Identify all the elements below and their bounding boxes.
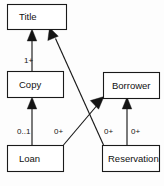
arrowhead-loan-to-copy (27, 97, 37, 109)
relationship-line-loan-to-borrower (64, 106, 97, 145)
class-box-title[interactable] (8, 5, 67, 30)
arrowhead-loan-to-borrower (90, 97, 104, 110)
multiplicity-label-loan-to-borrower: 0+ (54, 127, 63, 136)
class-node-copy[interactable]: Copy (8, 72, 64, 98)
multiplicity-label-reservation-to-title: 0+ (104, 127, 113, 136)
class-node-loan[interactable]: Loan (8, 146, 64, 172)
arrowhead-copy-to-title (27, 29, 37, 41)
class-node-borrower[interactable]: Borrower (104, 73, 160, 99)
multiplicity-label-loan-to-copy: 0..1 (17, 127, 31, 136)
class-node-reservation[interactable]: Reservation (103, 146, 160, 172)
class-label-title: Title (19, 11, 37, 22)
multiplicity-label-copy-to-title: 1+ (24, 56, 33, 65)
class-label-borrower: Borrower (112, 80, 151, 91)
class-label-loan: Loan (19, 153, 40, 164)
uml-class-diagram: Title Copy Loan Borrower Reservation 1+ … (0, 0, 164, 186)
class-label-reservation: Reservation (108, 153, 159, 164)
class-node-title[interactable]: Title (8, 5, 67, 30)
class-label-copy: Copy (19, 79, 41, 90)
diagram-canvas: Title Copy Loan Borrower Reservation 1+ … (0, 0, 164, 186)
multiplicity-label-reservation-to-borrower: 0+ (131, 127, 140, 136)
